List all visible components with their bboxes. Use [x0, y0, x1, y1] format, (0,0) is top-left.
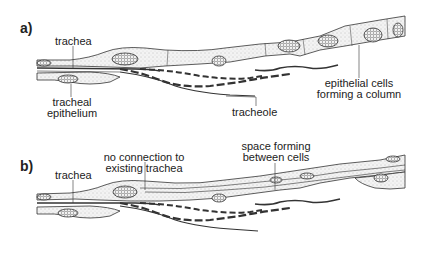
tracheole-b-4 — [255, 199, 340, 205]
panel-b-drawing — [37, 155, 405, 231]
nucleus — [364, 28, 382, 42]
label-trachea-b: trachea — [55, 170, 92, 181]
nucleus — [393, 23, 403, 37]
nucleus — [58, 209, 78, 217]
nucleus — [374, 174, 388, 182]
nucleus — [212, 56, 226, 66]
nucleus — [37, 60, 51, 66]
label-trachea-a: trachea — [55, 36, 92, 47]
tracheal-epithelium-cell-b — [37, 206, 120, 218]
nucleus — [112, 53, 138, 65]
panel-b-label: b) — [20, 158, 33, 174]
tracheole-a-4 — [255, 65, 338, 71]
tracheole-b-1 — [120, 203, 290, 220]
tracheole-a-2 — [120, 72, 255, 96]
tracheole-b-3 — [140, 203, 262, 213]
label-epithelial-cells-line2: forming a column — [313, 89, 405, 100]
tracheole-b-2 — [120, 206, 258, 231]
panel-a-label: a) — [20, 20, 32, 36]
label-no-connection-line2: existing trachea — [100, 163, 188, 174]
nucleus — [270, 177, 282, 183]
nucleus — [386, 156, 400, 162]
nucleus — [58, 75, 78, 83]
nucleus — [278, 40, 300, 52]
nucleus — [113, 186, 137, 198]
label-tracheal-epithelium-line2: epithelium — [44, 108, 100, 119]
nucleus — [300, 173, 314, 179]
nucleus — [318, 35, 338, 47]
tracheole-a-3 — [140, 69, 262, 79]
label-space-forming-line2: between cells — [236, 152, 316, 163]
tracheal-epithelium-cell-a — [37, 72, 120, 84]
nucleus — [37, 194, 51, 200]
tracheole-a-1 — [120, 69, 290, 86]
label-tracheole: tracheole — [232, 107, 277, 118]
nucleus — [212, 194, 226, 202]
